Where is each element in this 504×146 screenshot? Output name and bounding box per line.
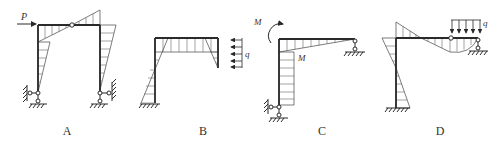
moment-diagram-b <box>141 38 218 103</box>
moment-diagram-c <box>279 39 355 105</box>
support-right-c <box>344 39 365 56</box>
support-right-a <box>90 79 116 108</box>
support-left-c <box>264 99 288 122</box>
panel-label-d: D <box>436 124 445 138</box>
load-label-q-d: q <box>483 18 488 28</box>
panel-c <box>264 24 365 122</box>
distributed-load-icon <box>451 20 481 33</box>
moment-diagram-a <box>38 10 116 92</box>
frame-d <box>396 38 478 108</box>
moment-diagrams-figure: P A <box>0 0 504 146</box>
frame-b <box>155 38 218 103</box>
panel-a <box>17 10 116 108</box>
hinge-icon <box>449 36 453 40</box>
load-label-p: P <box>20 11 27 22</box>
distributed-load-icon <box>231 38 242 68</box>
hinge-icon <box>70 23 74 27</box>
frame-a <box>38 25 100 92</box>
load-label-m: M <box>253 17 262 27</box>
fixed-support-b <box>139 104 160 108</box>
moment-label-m: M <box>297 53 306 63</box>
load-label-q-b: q <box>245 49 250 59</box>
panel-label-c: C <box>318 124 326 138</box>
panel-b <box>139 38 242 108</box>
panel-label-b: B <box>199 124 207 138</box>
panel-label-a: A <box>63 124 72 138</box>
panel-d <box>382 20 488 112</box>
applied-moment-icon <box>269 24 283 43</box>
fixed-support-d <box>385 108 410 112</box>
frame-c <box>279 39 355 107</box>
support-left-a <box>23 85 47 108</box>
